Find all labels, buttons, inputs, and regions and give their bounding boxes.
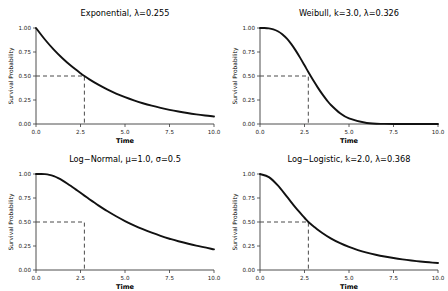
median-reference-line (36, 76, 84, 124)
x-tick-label: 10.0 (208, 275, 221, 281)
x-tick-label: 5.0 (345, 129, 354, 135)
y-tick-label: 0.75 (19, 49, 32, 55)
axis-spines (260, 28, 438, 124)
x-tick-label: 10.0 (432, 129, 445, 135)
x-tick-label: 10.0 (432, 275, 445, 281)
survival-curve (260, 174, 438, 263)
x-tick-label: 7.5 (389, 129, 398, 135)
y-tick-label: 0.00 (19, 267, 32, 273)
panel-title: Log−Logistic, k=2.0, λ=0.368 (288, 154, 411, 164)
y-tick-label: 0.50 (243, 73, 256, 79)
x-tick-label: 2.5 (300, 275, 309, 281)
y-axis-title: Survival Probability (8, 193, 15, 250)
survival-curve (260, 28, 438, 124)
x-axis-title: Time (340, 283, 359, 291)
plot-panel-bottom-left: Log−Normal, μ=1.0, σ=0.50.000.250.500.75… (0, 146, 224, 291)
x-tick-label: 2.5 (76, 275, 85, 281)
x-tick-label: 10.0 (208, 129, 221, 135)
y-tick-label: 1.00 (243, 25, 256, 31)
panel-title: Exponential, λ=0.255 (81, 8, 170, 18)
x-tick-label: 2.5 (300, 129, 309, 135)
y-tick-label: 0.00 (243, 121, 256, 127)
y-tick-label: 0.00 (243, 267, 256, 273)
x-tick-label: 0.0 (32, 275, 41, 281)
y-tick-label: 1.00 (19, 171, 32, 177)
y-tick-label: 0.25 (243, 97, 256, 103)
y-tick-label: 0.50 (19, 73, 32, 79)
survival-curves-figure: Exponential, λ=0.2550.000.250.500.751.00… (0, 0, 448, 291)
x-tick-label: 5.0 (121, 129, 130, 135)
y-axis-title: Survival Probability (232, 193, 239, 250)
x-tick-label: 0.0 (256, 275, 265, 281)
axis-spines (36, 28, 214, 124)
y-tick-label: 0.50 (243, 219, 256, 225)
y-tick-label: 0.25 (19, 243, 32, 249)
median-reference-line (36, 222, 84, 270)
y-tick-label: 0.75 (243, 195, 256, 201)
y-tick-label: 1.00 (243, 171, 256, 177)
panel-title: Weibull, k=3.0, λ=0.326 (299, 8, 399, 18)
x-axis-title: Time (340, 137, 359, 145)
y-tick-label: 0.50 (19, 219, 32, 225)
y-tick-label: 1.00 (19, 25, 32, 31)
x-tick-label: 7.5 (165, 275, 174, 281)
y-axis-title: Survival Probability (232, 47, 239, 104)
x-tick-label: 0.0 (256, 129, 265, 135)
median-reference-line (260, 222, 308, 270)
y-tick-label: 0.25 (243, 243, 256, 249)
x-axis-title: Time (116, 137, 135, 145)
x-tick-label: 0.0 (32, 129, 41, 135)
x-axis-title: Time (116, 283, 135, 291)
x-tick-label: 5.0 (121, 275, 130, 281)
x-tick-label: 2.5 (76, 129, 85, 135)
y-tick-label: 0.75 (19, 195, 32, 201)
y-tick-label: 0.00 (19, 121, 32, 127)
y-tick-label: 0.25 (19, 97, 32, 103)
y-axis-title: Survival Probability (8, 47, 15, 104)
plot-panel-bottom-right: Log−Logistic, k=2.0, λ=0.3680.000.250.50… (224, 146, 448, 291)
plot-panel-top-right: Weibull, k=3.0, λ=0.3260.000.250.500.751… (224, 0, 448, 145)
x-tick-label: 5.0 (345, 275, 354, 281)
x-tick-label: 7.5 (389, 275, 398, 281)
panel-title: Log−Normal, μ=1.0, σ=0.5 (69, 154, 181, 164)
median-reference-line (260, 76, 308, 124)
survival-curve (36, 174, 214, 249)
x-tick-label: 7.5 (165, 129, 174, 135)
y-tick-label: 0.75 (243, 49, 256, 55)
axis-spines (260, 174, 438, 270)
plot-panel-top-left: Exponential, λ=0.2550.000.250.500.751.00… (0, 0, 224, 145)
survival-curve (36, 28, 214, 117)
